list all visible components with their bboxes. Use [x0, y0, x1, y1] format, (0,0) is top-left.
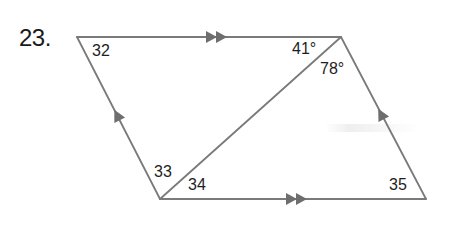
- double-arrow-icon-bottom: [286, 193, 307, 205]
- angle-label-32: 32: [92, 43, 110, 59]
- angle-label-33: 33: [154, 164, 172, 180]
- angle-label-78: 78°: [320, 61, 344, 77]
- single-arrow-icon-right: [373, 106, 389, 122]
- parallelogram-figure: [0, 0, 453, 228]
- angle-label-41: 41°: [292, 41, 316, 57]
- angle-label-34: 34: [188, 177, 206, 193]
- double-arrow-icon-top: [206, 31, 227, 43]
- angle-label-35: 35: [389, 177, 407, 193]
- diagonal: [160, 37, 341, 199]
- single-arrow-icon-left: [109, 107, 125, 123]
